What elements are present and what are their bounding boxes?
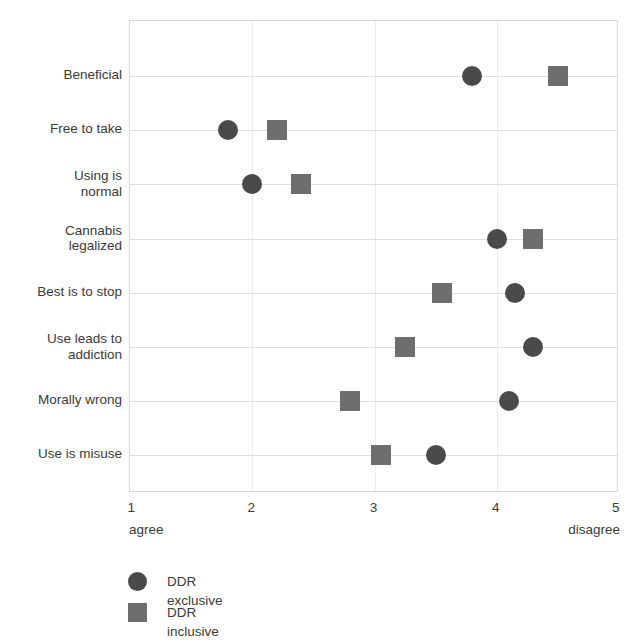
data-point-square [548,66,568,86]
scatter-chart-figure: BeneficialFree to takeUsing is normalCan… [0,0,635,642]
data-point-square [395,337,415,357]
category-label: Cannabis legalized [0,222,122,253]
category-gridline [130,184,617,185]
category-label: Use is misuse [0,447,122,463]
data-point-square [267,120,287,140]
data-point-circle [242,174,262,194]
x-axis-disagree-anchor: disagree [568,522,620,537]
data-point-circle [523,337,543,357]
data-point-circle [218,120,238,140]
legend-circle-icon [128,572,147,591]
category-label: Using is normal [0,168,122,199]
category-label: Use leads to addiction [0,331,122,362]
x-tick-label: 3 [370,500,378,515]
data-point-square [432,283,452,303]
data-point-square [371,445,391,465]
category-gridline [130,239,617,240]
data-point-circle [487,229,507,249]
vertical-gridline [375,21,376,491]
data-point-circle [499,391,519,411]
data-point-circle [462,66,482,86]
legend-square-icon [128,603,147,622]
category-gridline [130,347,617,348]
x-tick-label: 2 [247,500,255,515]
data-point-square [523,229,543,249]
x-tick-label: 4 [492,500,500,515]
category-gridline [130,293,617,294]
data-point-square [291,174,311,194]
data-point-circle [426,445,446,465]
category-gridline [130,401,617,402]
category-label: Free to take [0,121,122,137]
category-label: Beneficial [0,67,122,83]
category-label: Best is to stop [0,284,122,300]
x-axis-agree-anchor: agree [129,522,164,537]
category-label: Morally wrong [0,392,122,408]
x-tick-label: 1 [127,500,135,515]
vertical-gridline [252,21,253,491]
category-gridline [130,130,617,131]
category-gridline [130,76,617,77]
legend-label: DDR inclusive [167,603,219,641]
vertical-gridline [497,21,498,491]
data-point-square [340,391,360,411]
data-point-circle [505,283,525,303]
x-tick-label: 5 [612,500,620,515]
plot-area [129,20,618,492]
